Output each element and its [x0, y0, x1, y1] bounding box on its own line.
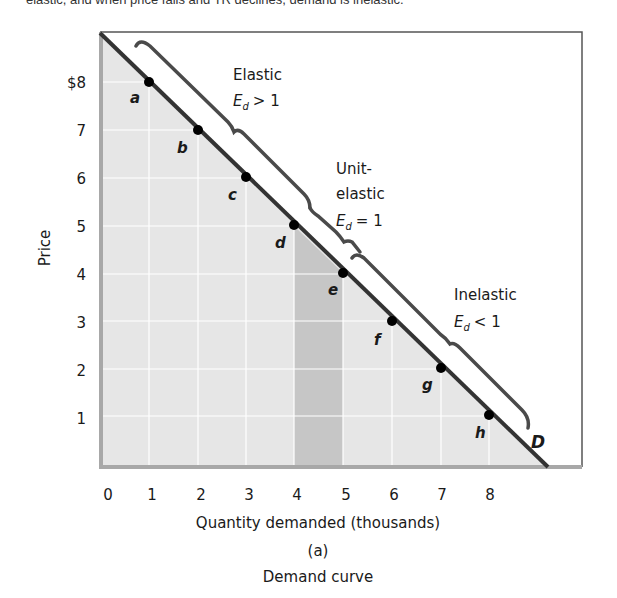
y-tick-7: 7 [76, 122, 86, 140]
y-tick-8: $8 [67, 74, 86, 92]
demand-curve-chart: a b c d e f g h D Elastic Ed> 1 Unit- el… [0, 0, 617, 598]
point-label-h: h [475, 424, 486, 442]
x-tick-4: 4 [292, 486, 302, 504]
x-tick-8: 8 [485, 486, 495, 504]
y-axis-ticks: $8 7 6 5 4 3 2 1 [67, 74, 86, 428]
x-tick-1: 1 [147, 486, 157, 504]
point-e [338, 268, 348, 278]
panel-label: (a) [308, 542, 329, 560]
point-b [193, 125, 203, 135]
y-tick-3: 3 [76, 314, 86, 332]
y-tick-1: 1 [76, 410, 86, 428]
elastic-label: Elastic [233, 66, 282, 84]
inelastic-condition: Ed< 1 [454, 313, 501, 333]
x-axis-title: Quantity demanded (thousands) [196, 514, 440, 532]
unit-elastic-condition: Ed= 1 [336, 212, 383, 232]
point-g [436, 363, 446, 373]
point-label-g: g [422, 376, 433, 394]
x-tick-5: 5 [341, 486, 351, 504]
unit-elastic-label-line1: Unit- [336, 160, 372, 178]
y-tick-6: 6 [76, 170, 86, 188]
curve-label-d: D [531, 432, 545, 452]
point-d [289, 220, 299, 230]
point-label-c: c [228, 186, 237, 204]
y-tick-2: 2 [76, 362, 86, 380]
x-tick-0: 0 [103, 486, 113, 504]
point-label-e: e [328, 281, 338, 299]
x-axis-ticks: 0 1 2 3 4 5 6 7 8 [103, 486, 495, 504]
point-label-d: d [275, 234, 286, 252]
x-tick-3: 3 [244, 486, 254, 504]
elastic-condition: Ed> 1 [233, 92, 280, 112]
point-label-a: a [130, 89, 140, 107]
point-f [387, 316, 397, 326]
x-tick-2: 2 [196, 486, 206, 504]
unit-elastic-label-line2: elastic [336, 185, 385, 203]
chart-title: Demand curve [263, 568, 373, 586]
x-tick-7: 7 [437, 486, 447, 504]
inelastic-label: Inelastic [454, 286, 517, 304]
point-a [144, 77, 154, 87]
point-h [484, 410, 494, 420]
y-axis-title: Price [36, 230, 54, 267]
x-tick-6: 6 [389, 486, 399, 504]
point-c [241, 172, 251, 182]
y-tick-4: 4 [76, 266, 86, 284]
point-label-b: b [177, 139, 188, 157]
y-tick-5: 5 [76, 218, 86, 236]
